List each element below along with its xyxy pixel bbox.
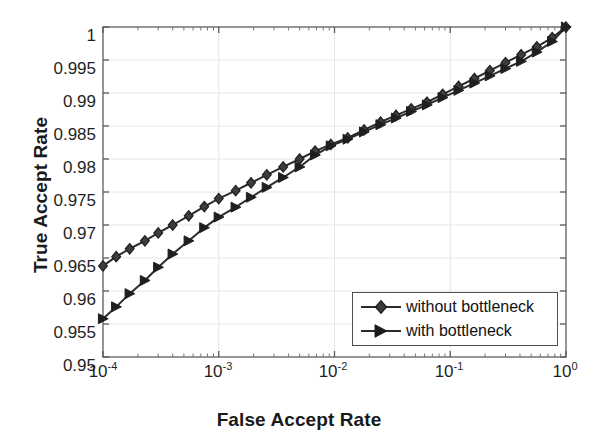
- legend-label: without bottleneck: [406, 298, 534, 316]
- legend-sample-diamond-icon: [359, 297, 403, 317]
- xtick-label: 10-2: [288, 362, 378, 382]
- xtick-label: 100: [520, 362, 598, 382]
- legend: without bottleneck with bottleneck: [352, 292, 558, 346]
- ytick-label: 0.955: [18, 324, 96, 341]
- legend-entry-without-bottleneck: without bottleneck: [359, 295, 534, 319]
- y-axis-title: True Accept Rate: [30, 70, 52, 320]
- xtick-label: 10-3: [173, 362, 263, 382]
- xtick-1: 10-3: [173, 362, 263, 363]
- legend-label: with bottleneck: [406, 322, 512, 340]
- xtick-4: 100: [520, 362, 598, 363]
- ytick-10: 1: [18, 27, 96, 28]
- y-axis-title-wrapper: True Accept Rate: [30, 70, 56, 320]
- ytick-9: 0.995: [18, 60, 96, 61]
- legend-sample-triangle-icon: [359, 321, 403, 341]
- xtick-0: 10-4: [58, 362, 148, 363]
- ytick-label: 1: [18, 27, 96, 44]
- legend-entry-with-bottleneck: with bottleneck: [359, 319, 512, 343]
- roc-chart-figure: 0.95 0.955 0.96 0.965 0.97 0.975 0.98 0.…: [0, 0, 598, 444]
- xtick-label: 10-1: [404, 362, 494, 382]
- x-axis-title: False Accept Rate: [0, 409, 598, 431]
- xtick-2: 10-2: [288, 362, 378, 363]
- xtick-label: 10-4: [58, 362, 148, 382]
- xtick-3: 10-1: [404, 362, 494, 363]
- ytick-0: 0.95: [18, 357, 96, 358]
- ytick-1: 0.955: [18, 324, 96, 325]
